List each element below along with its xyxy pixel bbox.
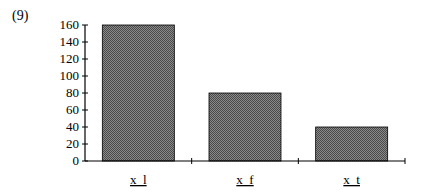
y-tick-label: 120 <box>60 51 80 66</box>
bar-chart: 020406080100120140160 x lx fx t <box>0 0 421 192</box>
y-tick-label: 140 <box>60 34 80 49</box>
y-tick-label: 60 <box>66 102 79 117</box>
y-tick-label: 80 <box>66 85 79 100</box>
x-category-label: x l <box>130 172 147 187</box>
x-axis: x lx fx t <box>85 158 405 187</box>
y-tick-label: 160 <box>60 17 80 32</box>
bars <box>102 25 387 161</box>
bar-x_l <box>102 25 174 161</box>
bar-x_t <box>316 127 388 161</box>
y-tick-label: 20 <box>66 136 79 151</box>
y-tick-label: 40 <box>66 119 79 134</box>
y-axis: 020406080100120140160 <box>60 17 89 168</box>
y-tick-label: 0 <box>73 153 80 168</box>
y-tick-label: 100 <box>60 68 80 83</box>
bar-x_f <box>209 93 281 161</box>
x-category-label: x f <box>236 172 254 187</box>
x-category-label: x t <box>343 172 360 187</box>
